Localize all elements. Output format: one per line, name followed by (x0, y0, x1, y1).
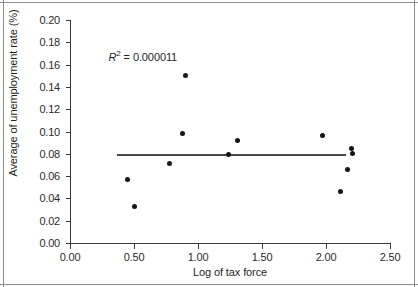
y-axis-tick (66, 176, 70, 177)
scatter-point (125, 177, 130, 182)
y-axis-tick (66, 132, 70, 133)
r-squared-annotation: R2 = 0.000011 (108, 49, 177, 63)
y-axis-tick (66, 87, 70, 88)
scatter-point (226, 152, 231, 157)
x-axis-tick-label: 0.50 (124, 251, 145, 263)
x-axis-tick (326, 244, 327, 249)
x-axis-tick-label: 1.50 (252, 251, 273, 263)
x-axis-tick-label: 2.50 (380, 251, 401, 263)
x-axis-tick-label: 0.00 (60, 251, 81, 263)
y-axis-tick (66, 42, 70, 43)
scatter-point (350, 151, 355, 156)
y-axis-tick-label: 0.00 (39, 237, 60, 249)
scatter-point (132, 204, 137, 209)
scatter-point (349, 146, 354, 151)
x-axis-tick (198, 244, 199, 249)
x-axis-tick-label: 1.00 (188, 251, 209, 263)
x-axis-title: Log of tax force (70, 266, 390, 278)
y-axis-tick (66, 154, 70, 155)
y-axis-tick-label: 0.08 (39, 148, 60, 160)
y-axis-title: Average of unemployment rate (%) (7, 0, 19, 213)
y-axis-tick-label: 0.18 (39, 36, 60, 48)
y-axis-tick-label: 0.04 (39, 192, 60, 204)
scatter-point (320, 133, 325, 138)
figure-border-left (3, 0, 4, 287)
r-squared-equals: = (124, 50, 130, 62)
y-axis-tick (66, 20, 70, 21)
x-axis-tick (134, 244, 135, 249)
y-axis-tick-label: 0.12 (39, 103, 60, 115)
chart-figure: 0.000.020.040.060.080.100.120.140.160.18… (0, 0, 418, 287)
x-axis-tick (262, 244, 263, 249)
y-axis-tick-label: 0.02 (39, 215, 60, 227)
y-axis-tick-label: 0.20 (39, 14, 60, 26)
x-axis-tick-label: 2.00 (316, 251, 337, 263)
y-axis-tick (66, 221, 70, 222)
x-axis-tick (70, 244, 71, 249)
y-axis-tick-label: 0.16 (39, 59, 60, 71)
y-axis-tick-label: 0.10 (39, 126, 60, 138)
scatter-point (235, 138, 240, 143)
r-squared-value: 0.000011 (133, 50, 177, 62)
y-axis-tick (66, 109, 70, 110)
y-axis-tick-label: 0.14 (39, 81, 60, 93)
scatter-point (345, 167, 350, 172)
scatter-point (338, 189, 343, 194)
y-axis-line (70, 20, 71, 244)
scatter-point (183, 73, 188, 78)
y-axis-tick-label: 0.06 (39, 170, 60, 182)
scatter-point (167, 161, 172, 166)
r-squared-superscript: 2 (116, 49, 120, 58)
x-axis-tick (390, 244, 391, 249)
figure-border-top (0, 2, 418, 3)
x-axis-line (70, 243, 391, 244)
y-axis-tick (66, 65, 70, 66)
y-axis-tick (66, 198, 70, 199)
scatter-point (180, 131, 185, 136)
figure-border-right (414, 0, 415, 287)
figure-border-bottom (0, 284, 418, 285)
regression-trend-line (117, 154, 346, 156)
